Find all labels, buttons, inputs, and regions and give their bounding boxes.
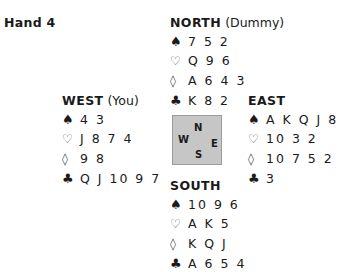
west-hand: WEST (You) ♠4 3 ♡J 8 7 4 ◊9 8 ♣Q J 10 9 … <box>62 93 161 188</box>
south-clubs: ♣A 6 5 4 <box>170 254 246 272</box>
east-header: EAST <box>248 93 338 109</box>
west-hearts: ♡J 8 7 4 <box>62 129 161 149</box>
north-spades: ♠7 5 2 <box>170 32 284 51</box>
east-hearts-cards: 10 3 2 <box>266 131 318 146</box>
east-hand: EAST ♠A K Q J 8 ♡10 3 2 ◊10 7 5 2 ♣3 <box>248 93 338 188</box>
south-label: SOUTH <box>170 178 221 193</box>
south-diamonds-cards: K Q J <box>188 236 228 251</box>
compass-south: S <box>195 149 202 160</box>
diamond-icon: ◊ <box>248 150 266 169</box>
heart-icon: ♡ <box>170 52 188 71</box>
heart-icon: ♡ <box>248 130 266 149</box>
east-clubs-cards: 3 <box>266 171 276 186</box>
spade-icon: ♠ <box>248 110 266 129</box>
compass-west: W <box>178 134 189 145</box>
west-spades-cards: 4 3 <box>80 112 106 127</box>
south-hearts-cards: A K 5 <box>188 216 231 231</box>
south-hand: SOUTH ♠10 9 6 ♡A K 5 ◊K Q J ♣A 6 5 4 <box>170 178 246 272</box>
west-hearts-cards: J 8 7 4 <box>80 131 133 146</box>
north-role: (Dummy) <box>225 15 284 30</box>
south-hearts: ♡A K 5 <box>170 214 246 234</box>
east-clubs: ♣3 <box>248 169 338 188</box>
north-diamonds: ◊A 6 4 3 <box>170 71 284 91</box>
hand-title: Hand 4 <box>4 15 56 30</box>
compass-table: N W E S <box>172 115 222 165</box>
club-icon: ♣ <box>170 254 188 272</box>
spade-icon: ♠ <box>170 32 188 51</box>
east-label: EAST <box>248 93 285 108</box>
west-clubs-cards: Q J 10 9 7 <box>80 171 161 186</box>
north-spades-cards: 7 5 2 <box>188 34 230 49</box>
east-hearts: ♡10 3 2 <box>248 129 338 149</box>
south-diamonds: ◊K Q J <box>170 234 246 254</box>
west-diamonds-cards: 9 8 <box>80 151 106 166</box>
diamond-icon: ◊ <box>170 72 188 91</box>
west-spades: ♠4 3 <box>62 110 161 129</box>
east-spades: ♠A K Q J 8 <box>248 110 338 129</box>
club-icon: ♣ <box>248 169 266 188</box>
compass-east: E <box>211 138 218 149</box>
diamond-icon: ◊ <box>170 235 188 254</box>
spade-icon: ♠ <box>170 195 188 214</box>
south-spades-cards: 10 9 6 <box>188 197 240 212</box>
south-clubs-cards: A 6 5 4 <box>188 256 246 271</box>
compass-north: N <box>194 122 202 133</box>
spade-icon: ♠ <box>62 110 80 129</box>
north-diamonds-cards: A 6 4 3 <box>188 73 246 88</box>
east-spades-cards: A K Q J 8 <box>266 112 338 127</box>
west-diamonds: ◊9 8 <box>62 149 161 169</box>
east-diamonds-cards: 10 7 5 2 <box>266 151 334 166</box>
north-hearts: ♡Q 9 6 <box>170 51 284 71</box>
north-header: NORTH (Dummy) <box>170 15 284 31</box>
diamond-icon: ◊ <box>62 150 80 169</box>
north-label: NORTH <box>170 15 221 30</box>
club-icon: ♣ <box>170 91 188 110</box>
heart-icon: ♡ <box>62 130 80 149</box>
south-header: SOUTH <box>170 178 246 194</box>
south-spades: ♠10 9 6 <box>170 195 246 214</box>
north-clubs-cards: K 8 2 <box>188 93 230 108</box>
west-clubs: ♣Q J 10 9 7 <box>62 169 161 188</box>
west-header: WEST (You) <box>62 93 161 109</box>
north-hearts-cards: Q 9 6 <box>188 53 232 68</box>
club-icon: ♣ <box>62 169 80 188</box>
east-diamonds: ◊10 7 5 2 <box>248 149 338 169</box>
west-role: (You) <box>107 93 138 108</box>
west-label: WEST <box>62 93 103 108</box>
heart-icon: ♡ <box>170 215 188 234</box>
